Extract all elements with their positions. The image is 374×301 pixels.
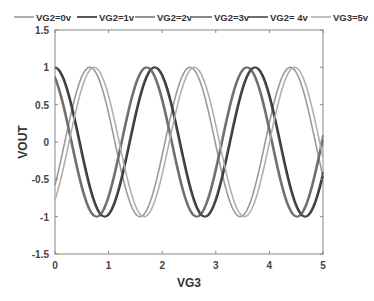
x-tick-label: 0 <box>52 260 58 271</box>
series-line-4 <box>55 67 323 216</box>
y-tick-label: -1 <box>40 212 49 223</box>
legend-label: VG2= 4v <box>270 12 308 23</box>
series-line-2 <box>55 67 323 216</box>
x-tick-label: 1 <box>106 260 112 271</box>
y-axis-label: VOUT <box>16 125 30 159</box>
series-line-0 <box>55 67 323 216</box>
y-tick-label: 0 <box>43 137 49 148</box>
series-line-3 <box>55 67 323 216</box>
x-tick-label: 3 <box>213 260 219 271</box>
x-tick-label: 4 <box>267 260 273 271</box>
plot-area <box>55 30 323 254</box>
legend-label: VG2=1v <box>99 12 135 23</box>
y-tick-label: -1.5 <box>32 249 50 260</box>
legend-label: VG2=2v <box>157 12 193 23</box>
legend-label: VG3=5v <box>333 12 369 23</box>
x-tick-label: 2 <box>159 260 165 271</box>
series-lines <box>55 67 323 216</box>
legend: VG2=0vVG2=1vVG2=2vVG2=3vVG2= 4vVG3=5v <box>14 12 369 23</box>
x-axis-label: VG3 <box>177 276 201 290</box>
y-tick-label: 1.5 <box>35 25 49 36</box>
y-tick-label: -0.5 <box>32 174 50 185</box>
chart: VG2=0vVG2=1vVG2=2vVG2=3vVG2= 4vVG3=5v 01… <box>0 0 374 301</box>
x-tick-label: 5 <box>320 260 326 271</box>
y-tick-label: 1 <box>43 62 49 73</box>
series-line-5 <box>55 67 323 216</box>
x-axis: 012345 <box>52 30 326 271</box>
legend-label: VG2=0v <box>36 12 72 23</box>
series-line-1 <box>55 67 323 216</box>
legend-label: VG2=3v <box>214 12 250 23</box>
y-tick-label: 0.5 <box>35 100 49 111</box>
